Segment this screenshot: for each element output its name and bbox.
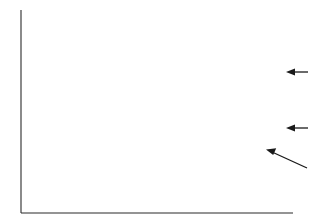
diagonal-arrow-icon-c-head bbox=[266, 148, 276, 155]
left-arrow-icon-b-head bbox=[286, 124, 295, 131]
diagonal-arrow-icon-c-shaft bbox=[272, 152, 307, 168]
annotation-arrow-a bbox=[286, 68, 308, 75]
left-arrow-icon-a-head bbox=[286, 68, 295, 75]
chart-canvas bbox=[0, 0, 335, 224]
annotation-arrow-b bbox=[286, 124, 308, 131]
annotation-arrow-c bbox=[266, 148, 307, 168]
axis-frame bbox=[21, 10, 293, 213]
line-chart-figure bbox=[0, 0, 335, 224]
